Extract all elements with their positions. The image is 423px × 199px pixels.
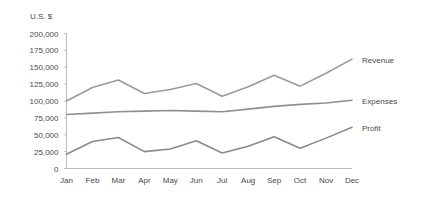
x-tick-label: Apr	[138, 176, 151, 185]
y-tick-label: 75,000	[34, 114, 59, 123]
y-tick-label: 175,000	[30, 46, 59, 55]
series-line-profit	[67, 127, 353, 154]
series-line-revenue	[67, 59, 353, 101]
y-tick-label: 100,000	[30, 97, 59, 106]
y-tick-label: 0	[54, 165, 59, 174]
x-tick-label: Nov	[319, 176, 333, 185]
x-tick-label: Sep	[267, 176, 282, 185]
series-lines	[67, 59, 353, 154]
x-tick-label: Feb	[86, 176, 100, 185]
y-tick-label: 200,000	[30, 30, 59, 39]
x-tick-label: May	[163, 176, 178, 185]
x-tick-label: Dec	[345, 176, 359, 185]
chart-canvas: U.S. $ 025,00050,00075,000100,000125,000…	[0, 0, 423, 199]
series-legend-labels: RevenueExpensesProfit	[362, 56, 397, 133]
y-tick-label: 25,000	[34, 148, 59, 157]
chart-axes	[67, 34, 353, 169]
series-label-profit: Profit	[362, 124, 381, 133]
series-label-expenses: Expenses	[362, 97, 397, 106]
x-tick-label: Jan	[60, 176, 73, 185]
x-tick-label: Mar	[112, 176, 126, 185]
y-axis-tick-labels: 025,00050,00075,000100,000125,000150,000…	[30, 30, 59, 174]
series-line-expenses	[67, 100, 353, 114]
y-tick-label: 125,000	[30, 80, 59, 89]
x-tick-label: Aug	[241, 176, 255, 185]
y-tick-label: 150,000	[30, 63, 59, 72]
y-axis-title: U.S. $	[30, 12, 53, 21]
line-chart: U.S. $ 025,00050,00075,000100,000125,000…	[0, 0, 423, 199]
x-tick-label: Jul	[217, 176, 227, 185]
x-tick-label: Jun	[190, 176, 203, 185]
x-axis-tick-labels: JanFebMarAprMayJunJulAugSepOctNovDec	[60, 176, 359, 185]
series-label-revenue: Revenue	[362, 56, 395, 65]
y-tick-label: 50,000	[34, 131, 59, 140]
x-tick-label: Oct	[294, 176, 307, 185]
